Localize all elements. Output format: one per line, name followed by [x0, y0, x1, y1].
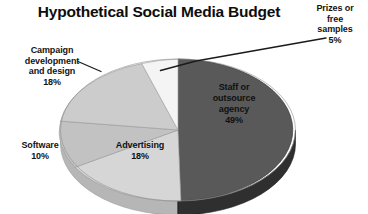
slice-label-software: Software 10% [4, 140, 76, 161]
pie-chart-figure: Hypothetical Social Media Budget Prizes … [0, 0, 368, 214]
slice-label-prizes-value: 5% [304, 35, 366, 46]
slice-label-software-value: 10% [4, 151, 76, 162]
slice-label-prizes-line2: free [304, 14, 366, 25]
slice-label-campaign: Campaign development and design 18% [6, 45, 98, 87]
slice-label-campaign-line1: Campaign [6, 45, 98, 56]
slice-label-prizes-line1: Prizes or [304, 3, 366, 14]
slice-label-advertising-line1: Advertising [99, 140, 181, 151]
slice-label-staff-line1: Staff or [196, 82, 272, 93]
slice-label-prizes-line3: samples [304, 24, 366, 35]
slice-label-campaign-line3: and design [6, 66, 98, 77]
slice-label-prizes: Prizes or free samples 5% [304, 3, 366, 45]
slice-label-staff: Staff or outsource agency 49% [196, 82, 272, 126]
slice-label-staff-value: 49% [196, 115, 272, 126]
slice-label-campaign-value: 18% [6, 77, 98, 88]
slice-label-staff-line2: outsource [196, 93, 272, 104]
slice-label-software-line1: Software [4, 140, 76, 151]
slice-label-staff-line3: agency [196, 104, 272, 115]
slice-label-campaign-line2: development [6, 56, 98, 67]
slice-label-advertising: Advertising 18% [99, 140, 181, 162]
slice-label-advertising-value: 18% [99, 151, 181, 162]
